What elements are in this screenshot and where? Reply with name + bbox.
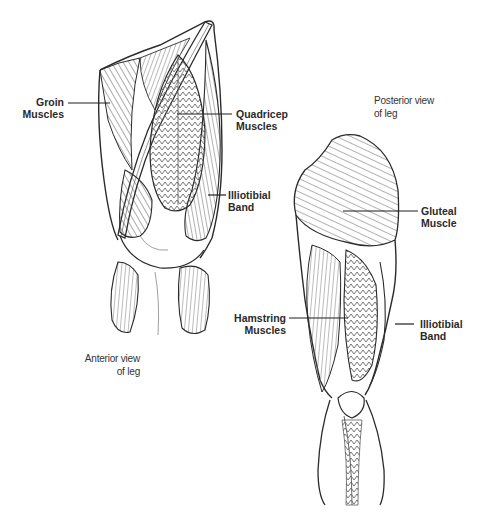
posterior-leg-drawing	[294, 135, 398, 505]
label-illiotibial-band-posterior: Illiotibial Band	[420, 318, 463, 342]
label-gluteal-muscle: Gluteal Muscle	[421, 205, 457, 229]
label-quadricep-muscles: Quadricep Muscles	[236, 108, 288, 132]
anterior-leg-drawing	[99, 21, 222, 335]
label-hamstring-line2: Muscles	[226, 324, 286, 336]
label-groin-muscles: Groin Muscles	[14, 96, 64, 120]
caption-anterior-line2: of leg	[60, 365, 140, 378]
label-gluteal-line1: Gluteal	[421, 205, 457, 217]
label-groin-line1: Groin	[14, 96, 64, 108]
label-groin-line2: Muscles	[14, 108, 64, 120]
label-hamstring-muscles: Hamstring Muscles	[226, 312, 286, 336]
label-illiotibial-line2: Band	[228, 201, 271, 213]
label-illiotibial-posterior-line1: Illiotibial	[420, 318, 463, 330]
label-quadricep-line2: Muscles	[236, 120, 288, 132]
label-illiotibial-posterior-line2: Band	[420, 330, 463, 342]
caption-posterior-line2: of leg	[374, 107, 434, 120]
label-illiotibial-line1: Illiotibial	[228, 189, 271, 201]
leg-muscles-diagram: Groin Muscles Quadricep Muscles Illiotib…	[0, 0, 483, 515]
label-illiotibial-band-anterior: Illiotibial Band	[228, 189, 271, 213]
caption-posterior-view: Posterior view of leg	[374, 94, 434, 120]
label-quadricep-line1: Quadricep	[236, 108, 288, 120]
caption-anterior-view: Anterior view of leg	[60, 352, 140, 378]
caption-posterior-line1: Posterior view	[374, 94, 434, 107]
leg-illustrations	[0, 0, 483, 515]
caption-anterior-line1: Anterior view	[60, 352, 140, 365]
label-gluteal-line2: Muscle	[421, 217, 457, 229]
label-hamstring-line1: Hamstring	[226, 312, 286, 324]
